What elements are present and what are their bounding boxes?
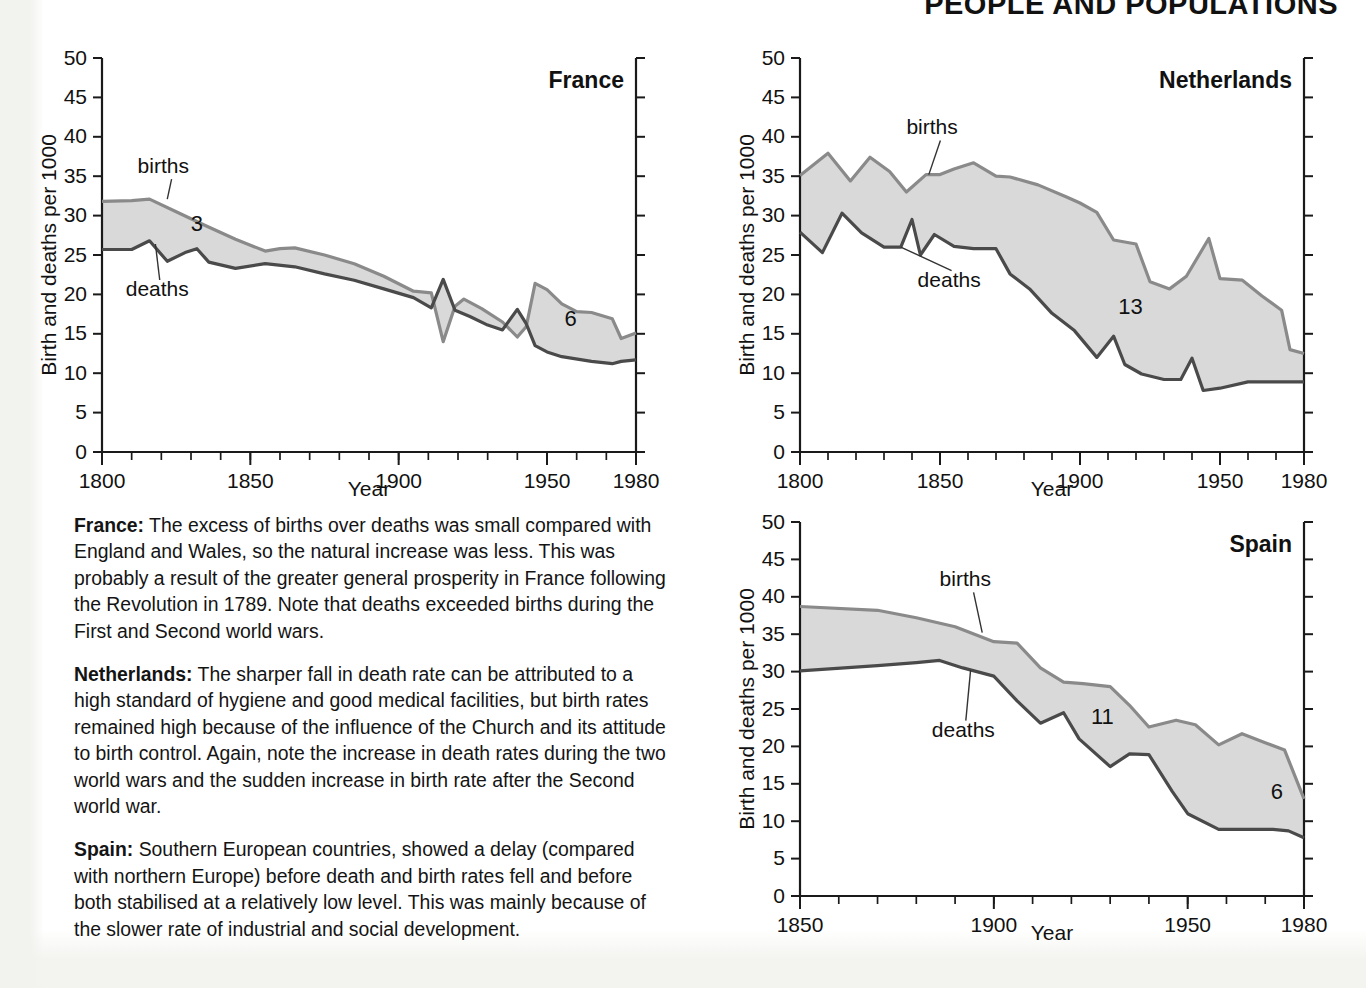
chart-title-spain: Spain (1229, 531, 1292, 557)
deaths-label-spain: deaths (932, 718, 995, 741)
births-label-netherlands: births (906, 115, 957, 138)
ytick-label-spain-15: 15 (762, 771, 785, 794)
paragraph-body-3: Southern European countries, showed a de… (74, 838, 646, 939)
band-netherlands (800, 153, 1304, 390)
gap-annotation-france-1: 6 (565, 306, 577, 331)
gap-annotation-france-0: 3 (191, 211, 203, 236)
ytick-label-netherlands-30: 30 (762, 203, 785, 226)
xtick-label-spain-1980: 1980 (1281, 913, 1328, 936)
ytick-label-france-35: 35 (64, 164, 87, 187)
xtick-label-spain-1850: 1850 (777, 913, 824, 936)
ytick-label-netherlands-15: 15 (762, 321, 785, 344)
xtick-label-netherlands-1800: 1800 (777, 469, 824, 492)
ytick-label-spain-40: 40 (762, 584, 785, 607)
ytick-label-netherlands-45: 45 (762, 85, 785, 108)
ytick-label-netherlands-0: 0 (773, 440, 785, 463)
running-head: PEOPLE AND POPULATIONS (0, 0, 1338, 21)
chart-svg-france: 0510152025303540455018001850190019501980… (40, 34, 660, 502)
deaths-leader-spain (966, 670, 971, 721)
xtick-label-netherlands-1980: 1980 (1281, 469, 1328, 492)
xaxis-title-netherlands: Year (1031, 477, 1073, 500)
ytick-label-netherlands-5: 5 (773, 400, 785, 423)
ytick-label-france-20: 20 (64, 282, 87, 305)
body-text-column: France: The excess of births over deaths… (74, 512, 674, 942)
paragraph-3: Spain: Southern European countries, show… (74, 836, 674, 942)
chart-panel-spain: 051015202530354045501850190019501980Spai… (716, 500, 1348, 946)
paragraph-body-1: The excess of births over deaths was sma… (74, 514, 666, 642)
xaxis-title-spain: Year (1031, 921, 1073, 944)
yaxis-title-france: Birth and deaths per 1000 (40, 134, 60, 376)
chart-svg-netherlands: 0510152025303540455018001850190019501980… (716, 34, 1348, 502)
ytick-label-netherlands-40: 40 (762, 124, 785, 147)
chart-title-netherlands: Netherlands (1159, 67, 1292, 93)
ytick-label-france-15: 15 (64, 321, 87, 344)
xtick-label-france-1850: 1850 (227, 469, 274, 492)
ytick-label-netherlands-35: 35 (762, 164, 785, 187)
paragraph-2: Netherlands: The sharper fall in death r… (74, 661, 674, 819)
chart-panel-france: 0510152025303540455018001850190019501980… (40, 34, 660, 502)
xtick-label-netherlands-1850: 1850 (917, 469, 964, 492)
xtick-label-france-1980: 1980 (613, 469, 660, 492)
births-label-spain: births (940, 567, 991, 590)
births-leader-netherlands (929, 140, 941, 174)
ytick-label-spain-35: 35 (762, 622, 785, 645)
ytick-label-france-40: 40 (64, 124, 87, 147)
ytick-label-france-25: 25 (64, 243, 87, 266)
chart-title-france: France (549, 67, 624, 93)
xtick-label-netherlands-1950: 1950 (1197, 469, 1244, 492)
paragraph-lead-3: Spain: (74, 838, 133, 860)
deaths-label-france: deaths (126, 277, 189, 300)
xtick-label-spain-1950: 1950 (1164, 913, 1211, 936)
band-spain (800, 607, 1304, 838)
ytick-label-france-0: 0 (75, 440, 87, 463)
yaxis-title-netherlands: Birth and deaths per 1000 (735, 134, 758, 376)
ytick-label-spain-25: 25 (762, 697, 785, 720)
ytick-label-spain-5: 5 (773, 846, 785, 869)
paragraph-body-2: The sharper fall in death rate can be at… (74, 663, 666, 817)
ytick-label-netherlands-25: 25 (762, 243, 785, 266)
xtick-label-france-1950: 1950 (524, 469, 571, 492)
ytick-label-spain-20: 20 (762, 734, 785, 757)
gap-annotation-spain-0: 11 (1091, 704, 1114, 729)
ytick-label-spain-30: 30 (762, 659, 785, 682)
births-leader-france (167, 179, 171, 199)
ytick-label-spain-10: 10 (762, 809, 785, 832)
ytick-label-france-50: 50 (64, 46, 87, 69)
ytick-label-spain-50: 50 (762, 510, 785, 533)
ytick-label-france-45: 45 (64, 85, 87, 108)
births-leader-spain (974, 592, 983, 632)
xtick-label-france-1800: 1800 (79, 469, 126, 492)
ytick-label-spain-45: 45 (762, 547, 785, 570)
ytick-label-france-30: 30 (64, 203, 87, 226)
xaxis-title-france: Year (348, 477, 390, 500)
xtick-label-spain-1900: 1900 (970, 913, 1017, 936)
births-label-france: births (138, 154, 189, 177)
gap-annotation-netherlands-0: 13 (1118, 294, 1142, 319)
ytick-label-france-5: 5 (75, 400, 87, 423)
deaths-label-netherlands: deaths (918, 268, 981, 291)
chart-svg-spain: 051015202530354045501850190019501980Spai… (716, 500, 1348, 946)
ytick-label-france-10: 10 (64, 361, 87, 384)
paragraph-1: France: The excess of births over deaths… (74, 512, 674, 644)
paragraph-lead-2: Netherlands: (74, 663, 193, 685)
paragraph-lead-1: France: (74, 514, 144, 536)
ytick-label-netherlands-50: 50 (762, 46, 785, 69)
ytick-label-spain-0: 0 (773, 884, 785, 907)
ytick-label-netherlands-20: 20 (762, 282, 785, 305)
yaxis-title-spain: Birth and deaths per 1000 (735, 588, 758, 830)
gap-annotation-spain-1: 6 (1271, 779, 1283, 804)
chart-panel-netherlands: 0510152025303540455018001850190019501980… (716, 34, 1348, 502)
ytick-label-netherlands-10: 10 (762, 361, 785, 384)
